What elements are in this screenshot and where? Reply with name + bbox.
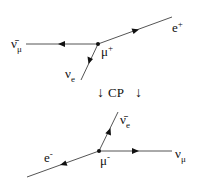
arrow-right-icon (132, 148, 139, 154)
label-neutrino-mu: νμ (175, 146, 186, 164)
label-antineutrino-e: ν̄e (120, 112, 130, 130)
vertex-dot (96, 42, 100, 46)
cp-label: CP (108, 85, 124, 100)
bottom-decay-diagram: ν̄e μ- e- νμ (27, 112, 186, 177)
cp-transform: ↓ CP ↓ (97, 85, 142, 100)
label-electron: e- (44, 149, 53, 165)
label-positron: e+ (172, 19, 183, 35)
arrow-down-icon (88, 57, 94, 65)
down-arrow-left-icon: ↓ (97, 85, 104, 100)
arrow-left-icon (58, 41, 65, 47)
top-decay-diagram: ν̄μ μ+ e+ νe (11, 17, 183, 84)
feynman-diagram: ν̄μ μ+ e+ νe ↓ CP ↓ ν̄e μ- e- νμ (0, 0, 197, 188)
label-neutrino-e: νe (65, 66, 75, 84)
label-mu-minus: μ- (100, 152, 110, 168)
arrow-up-icon (105, 128, 111, 136)
label-mu-plus: μ+ (101, 43, 113, 59)
arrow-down-left-icon (60, 160, 68, 165)
label-antineutrino-mu: ν̄μ (11, 36, 22, 54)
arrow-up-right-icon (132, 29, 140, 34)
down-arrow-right-icon: ↓ (135, 85, 142, 100)
